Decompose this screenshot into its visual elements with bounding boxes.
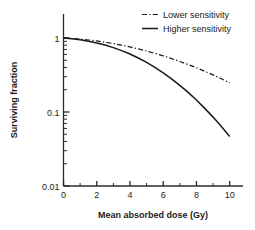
y-tick-label: 0.1 [47,108,60,118]
legend-item-lower-sensitivity: Lower sensitivity [142,10,230,20]
axes [64,14,244,186]
x-tick-label: 8 [194,190,199,200]
y-axis-title: Surviving fraction [9,62,19,139]
curve-higher-sensitivity [64,38,230,137]
legend-label-higher-sensitivity: Higher sensitivity [163,24,232,34]
survival-curve-chart: 024681010.10.01 Mean absorbed dose (Gy) … [0,0,255,230]
data-curves [64,38,230,137]
legend: Lower sensitivity Higher sensitivity [142,10,232,34]
x-axis-title: Mean absorbed dose (Gy) [98,210,208,220]
chart-figure: 024681010.10.01 Mean absorbed dose (Gy) … [0,0,255,230]
x-tick-label: 10 [225,190,235,200]
x-tick-label: 0 [61,190,66,200]
legend-item-higher-sensitivity: Higher sensitivity [142,24,232,34]
legend-label-lower-sensitivity: Lower sensitivity [163,10,230,20]
axis-ticks [64,38,230,186]
x-tick-label: 4 [127,190,132,200]
curve-lower-sensitivity [64,38,230,83]
y-tick-label: 0.01 [42,182,60,192]
x-tick-label: 2 [94,190,99,200]
x-tick-label: 6 [161,190,166,200]
y-tick-label: 1 [54,34,59,44]
